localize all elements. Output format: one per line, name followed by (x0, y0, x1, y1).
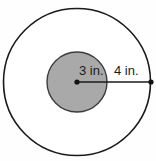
concentric-circles-figure: 3 in. 4 in. (0, 0, 156, 161)
outer-radius-label: 4 in. (114, 64, 139, 77)
center-point-dot (74, 79, 79, 84)
inner-radius-label: 3 in. (79, 64, 104, 77)
outer-edge-point-dot (148, 79, 153, 84)
figure-canvas (0, 0, 156, 161)
